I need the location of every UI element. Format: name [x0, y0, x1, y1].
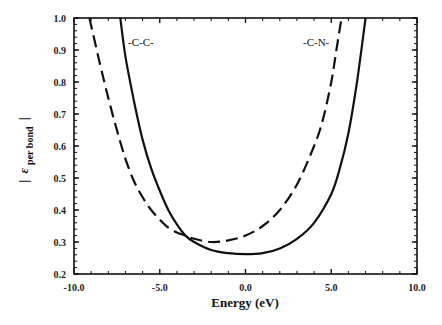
- y-tick-label: 0.5: [54, 173, 67, 184]
- x-tick-label: -10.0: [64, 282, 85, 293]
- series-label-c-n: -C-N-: [303, 36, 330, 48]
- y-tick-label: 0.8: [54, 77, 67, 88]
- x-tick-label: -5.0: [152, 282, 168, 293]
- y-tick-label: 0.6: [54, 141, 67, 152]
- x-tick-label: 5.0: [325, 282, 338, 293]
- y-tick-label: 0.2: [54, 269, 67, 280]
- svg-text:| ε per bond: | ε per bond |: [16, 117, 36, 182]
- y-tick-label: 0.4: [54, 205, 67, 216]
- x-tick-label: 0.0: [239, 282, 252, 293]
- y-tick-label: 1.0: [54, 13, 67, 24]
- y-axis-title-subscript: per bond: [24, 126, 35, 165]
- series-line-c-c: [120, 18, 365, 254]
- x-axis-title: Energy (eV): [211, 295, 279, 310]
- series-line-c-n: [89, 18, 341, 242]
- x-tick-label: 10.0: [408, 282, 426, 293]
- x-axis-ticks: -10.0-5.00.05.010.0: [64, 18, 426, 293]
- y-tick-label: 0.7: [54, 109, 67, 120]
- chart: 0.20.30.40.50.60.70.80.91.0 -10.0-5.00.0…: [0, 0, 442, 325]
- y-tick-label: 0.9: [54, 45, 67, 56]
- y-tick-label: 0.3: [54, 237, 67, 248]
- y-axis-title-bar-right: |: [16, 117, 31, 120]
- y-axis-title: | ε per bond |: [16, 117, 36, 182]
- y-axis-title-epsilon: ε: [16, 168, 31, 174]
- series-label-c-c: -C-C-: [128, 36, 154, 48]
- y-axis-title-bar-left: |: [16, 180, 31, 183]
